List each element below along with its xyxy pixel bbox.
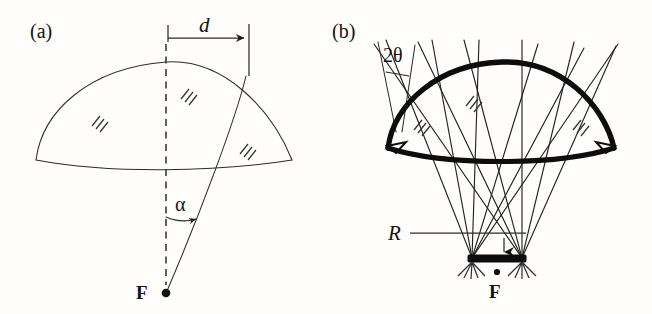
right-support-hatch [508,262,536,279]
thick-arc [388,62,614,148]
hatch-mark [92,116,108,132]
lower-chord [36,160,292,170]
angle-alpha-arc [166,217,196,221]
panel-a: (a) d α F [0,0,326,314]
focus-dot [162,289,171,298]
left-support-hatch [458,262,485,279]
ray-line [418,42,522,258]
radial-line [167,76,246,291]
radius-label: R [387,221,401,245]
hatch-mark [573,120,589,136]
panel-b-label: (b) [332,20,355,43]
dimension-d-label: d [199,13,210,37]
ray-line [472,44,538,258]
angle-2theta-tick [386,72,409,76]
focus-dot [494,269,500,275]
figure-container: (a) d α F [0,0,652,314]
angle-alpha: α [166,193,196,221]
upper-arc [36,62,292,160]
dimension-d: d [168,13,249,76]
radius-leader: R [387,221,526,245]
focus-point-a: F [136,282,170,303]
angle-2theta-right-line [402,45,415,132]
focus-point-b: F [489,269,501,302]
panel-b: (b) 2θ [326,0,652,314]
angle-alpha-label: α [175,193,186,215]
hatch-mark [240,144,256,160]
base-bar [468,255,526,262]
focus-label: F [489,281,501,302]
thick-chord [388,148,614,162]
focus-label: F [136,282,148,303]
hatch-mark [181,89,197,105]
angle-2theta-label: 2θ [383,44,403,66]
panel-a-label: (a) [30,20,52,43]
